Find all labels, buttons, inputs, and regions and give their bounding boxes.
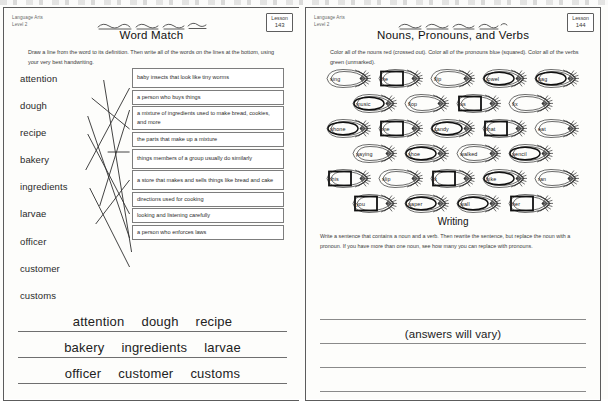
- word-chip[interactable]: ran: [532, 166, 582, 191]
- word-chip-label: paying: [350, 141, 400, 166]
- handwriting-word: larvae: [204, 340, 241, 355]
- word-chip[interactable]: sing: [324, 66, 374, 91]
- definition-box[interactable]: looking and listening carefully: [132, 208, 284, 223]
- handwriting-practice: attention dough recipe bakery ingredient…: [18, 306, 287, 390]
- word-chip-label: flop: [402, 91, 452, 116]
- word-chip-label: he: [376, 66, 426, 91]
- word-chip-label: fix: [506, 91, 556, 116]
- handwriting-word: recipe: [196, 314, 233, 329]
- writing-instructions: Write a sentence that contains a noun an…: [320, 232, 586, 251]
- match-word[interactable]: attention: [20, 74, 106, 84]
- handwriting-word: customer: [118, 366, 173, 381]
- word-chip-label: us: [454, 91, 504, 116]
- word-chip[interactable]: fix: [506, 91, 556, 116]
- word-chip-label: bag: [532, 66, 582, 91]
- handwriting-word: ingredients: [121, 340, 187, 355]
- word-chip-label: sing: [324, 66, 374, 91]
- definition-list: baby insects that look like tiny worms a…: [132, 68, 284, 242]
- match-word[interactable]: customer: [20, 264, 106, 274]
- word-chip-label: walked: [454, 141, 504, 166]
- word-chip[interactable]: wall: [454, 191, 504, 216]
- word-chip[interactable]: pencil: [506, 141, 556, 166]
- word-chip[interactable]: it: [428, 166, 478, 191]
- definition-box[interactable]: a store that makes and sells things like…: [132, 170, 284, 190]
- handwriting-row[interactable]: officer customer customs: [18, 358, 287, 384]
- writing-rule: [18, 383, 287, 384]
- definition-box[interactable]: directions used for cooking: [132, 192, 284, 207]
- word-chip-label: me: [376, 116, 426, 141]
- word-chip[interactable]: flop: [402, 91, 452, 116]
- word-cloud-row: singhefliptowelbag: [306, 66, 600, 91]
- word-chip[interactable]: me: [376, 116, 426, 141]
- word-chip[interactable]: us: [454, 91, 504, 116]
- word-chip[interactable]: bike: [480, 166, 530, 191]
- match-word[interactable]: customs: [20, 291, 106, 301]
- page-word-match: Language Arts Level 2 Lesson 143: [3, 7, 299, 401]
- word-chip-label: that: [480, 116, 530, 141]
- word-chip-label: wall: [454, 191, 504, 216]
- definition-box[interactable]: a person who enforces laws: [132, 225, 284, 240]
- word-chip[interactable]: bag: [532, 66, 582, 91]
- word-chip-label: slip: [376, 166, 426, 191]
- word-chip-label: pencil: [506, 141, 556, 166]
- definition-box[interactable]: a mixture of ingredients used to make br…: [132, 106, 284, 130]
- writing-lines: (answers will vary): [320, 296, 586, 392]
- match-word[interactable]: ingredients: [20, 182, 106, 192]
- instructions-right: Color all of the nouns red (crossed out)…: [330, 48, 584, 67]
- definition-box[interactable]: baby insects that look like tiny worms: [132, 68, 284, 88]
- word-chip-label: shoe: [402, 141, 452, 166]
- word-chip-label: candy: [428, 116, 478, 141]
- word-chip[interactable]: slip: [376, 166, 426, 191]
- writing-line[interactable]: [320, 344, 586, 368]
- handwriting-row-text: officer customer customs: [18, 366, 287, 381]
- writing-line[interactable]: [320, 296, 586, 320]
- word-chip[interactable]: paper: [402, 191, 452, 216]
- word-chip-label: phone: [324, 116, 374, 141]
- match-word[interactable]: dough: [20, 101, 106, 111]
- handwriting-word: dough: [141, 314, 178, 329]
- page-title-right: Nouns, Pronouns, and Verbs: [306, 29, 600, 41]
- word-cloud-row: thisslipitbikeran: [306, 166, 600, 191]
- word-chip-label: it: [428, 166, 478, 191]
- word-chip-label: her: [506, 191, 556, 216]
- word-chip-label: flip: [428, 66, 478, 91]
- word-chip[interactable]: you: [350, 191, 400, 216]
- word-list: attention dough recipe bakery ingredient…: [20, 74, 106, 318]
- word-chip[interactable]: flip: [428, 66, 478, 91]
- match-word[interactable]: recipe: [20, 128, 106, 138]
- match-word[interactable]: bakery: [20, 155, 106, 165]
- word-chip[interactable]: that: [480, 116, 530, 141]
- handwriting-word: bakery: [64, 340, 104, 355]
- writing-rule: [320, 391, 586, 392]
- word-chip[interactable]: candy: [428, 116, 478, 141]
- handwriting-row[interactable]: attention dough recipe: [18, 306, 287, 332]
- word-chip[interactable]: shoe: [402, 141, 452, 166]
- word-chip[interactable]: towel: [480, 66, 530, 91]
- writing-line[interactable]: [320, 368, 586, 392]
- handwriting-row[interactable]: bakery ingredients larvae: [18, 332, 287, 358]
- word-chip-label: ran: [532, 166, 582, 191]
- word-chip-label: eat: [532, 116, 582, 141]
- handwriting-row-text: bakery ingredients larvae: [18, 340, 287, 355]
- definition-box[interactable]: a person who buys things: [132, 90, 284, 105]
- match-word[interactable]: larvae: [20, 209, 106, 219]
- handwriting-row-text: attention dough recipe: [18, 314, 287, 329]
- definition-box[interactable]: things members of a group usually do sim…: [132, 149, 284, 169]
- word-chip[interactable]: eat: [532, 116, 582, 141]
- word-chip[interactable]: this: [324, 166, 374, 191]
- word-cloud: singhefliptowelbagmusicflopusfixphonemec…: [306, 66, 600, 218]
- word-chip[interactable]: phone: [324, 116, 374, 141]
- match-exercise: attention dough recipe bakery ingredient…: [4, 68, 299, 300]
- handwriting-word: officer: [65, 366, 102, 381]
- definition-box[interactable]: the parts that make up a mixture: [132, 132, 284, 147]
- word-chip[interactable]: music: [350, 91, 400, 116]
- word-chip-label: bike: [480, 166, 530, 191]
- word-chip[interactable]: walked: [454, 141, 504, 166]
- writing-line[interactable]: (answers will vary): [320, 320, 586, 344]
- word-chip[interactable]: paying: [350, 141, 400, 166]
- match-word[interactable]: officer: [20, 237, 106, 247]
- word-chip[interactable]: her: [506, 191, 556, 216]
- word-chip[interactable]: he: [376, 66, 426, 91]
- word-cloud-row: phonemecandythateat: [306, 116, 600, 141]
